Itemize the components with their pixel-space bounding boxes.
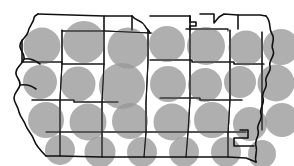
symbol-circle <box>112 103 148 139</box>
symbol-circle <box>28 102 64 138</box>
symbol-circle <box>108 28 149 69</box>
symbol-circle <box>211 137 241 166</box>
symbol-circle <box>23 65 57 99</box>
symbol-circle <box>229 31 264 66</box>
symbol-circle <box>188 68 222 102</box>
symbol-circle <box>61 67 96 102</box>
map-canvas <box>0 0 294 166</box>
symbol-circle <box>149 26 185 62</box>
symbol-circle <box>194 102 230 138</box>
symbol-circle <box>63 21 105 63</box>
symbol-circle <box>224 66 256 98</box>
proportional-symbol-map <box>0 0 294 166</box>
symbol-circle <box>150 66 186 102</box>
symbol-circle <box>187 27 225 65</box>
symbol-circle <box>70 104 107 141</box>
symbol-circle <box>154 104 191 141</box>
symbol-circle <box>169 137 199 166</box>
symbol-circle <box>127 137 157 166</box>
